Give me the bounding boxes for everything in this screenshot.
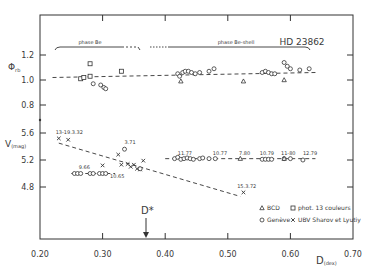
svg-text:BCD: BCD xyxy=(267,204,280,211)
svg-text:UBV Sharov et Lyutiy: UBV Sharov et Lyutiy xyxy=(298,216,361,224)
svg-text:10.79: 10.79 xyxy=(260,150,274,156)
svg-text:phot. 13 couleurs: phot. 13 couleurs xyxy=(298,204,351,212)
svg-text:Genève: Genève xyxy=(267,216,290,223)
y-label-lower: V(mag) xyxy=(5,139,26,150)
data-points xyxy=(57,61,311,195)
svg-text:0.50: 0.50 xyxy=(219,250,237,259)
svg-text:1.2: 1.2 xyxy=(21,51,34,60)
svg-text:13-19.3.32: 13-19.3.32 xyxy=(56,129,83,135)
d-star-marker: D* xyxy=(141,205,154,238)
legend: BCDphot. 13 couleursGenèveUBV Sharov et … xyxy=(260,204,361,224)
svg-text:5.2: 5.2 xyxy=(21,156,34,165)
svg-text:11-80: 11-80 xyxy=(281,150,296,156)
svg-text:0.40: 0.40 xyxy=(156,250,174,259)
x-axis-label: D(dex) xyxy=(316,255,337,266)
svg-text:10.65: 10.65 xyxy=(110,173,124,179)
svg-text:5.6: 5.6 xyxy=(21,129,34,138)
svg-text:10.77: 10.77 xyxy=(213,150,227,156)
svg-text:9.66: 9.66 xyxy=(79,164,90,170)
svg-text:0.60: 0.60 xyxy=(281,250,299,259)
svg-text:15.3.72: 15.3.72 xyxy=(237,183,256,189)
svg-text:7.80: 7.80 xyxy=(239,150,250,156)
chart-title: HD 23862 xyxy=(279,37,324,47)
chart-figure: 0.200.300.400.500.600.70 1.21.00.85.65.2… xyxy=(0,0,373,271)
svg-text:phase Be-shell: phase Be-shell xyxy=(218,39,255,46)
svg-text:0.8: 0.8 xyxy=(21,101,34,110)
svg-text:1.0: 1.0 xyxy=(21,76,34,85)
svg-text:3.71: 3.71 xyxy=(125,139,136,145)
arrow-down-icon xyxy=(143,232,149,238)
svg-text:11.77: 11.77 xyxy=(178,150,192,156)
svg-text:12.79: 12.79 xyxy=(303,150,317,156)
phase-brackets: phase Bephase Be-shell xyxy=(55,39,310,50)
y-label-upper: Φrb xyxy=(8,62,20,73)
svg-text:phase Be: phase Be xyxy=(78,39,101,46)
svg-text:0.70: 0.70 xyxy=(344,250,362,259)
svg-text:0.30: 0.30 xyxy=(94,250,112,259)
svg-text:0.20: 0.20 xyxy=(31,250,49,259)
svg-text:4.8: 4.8 xyxy=(21,183,34,192)
trend-lines xyxy=(53,73,316,197)
svg-text:D*: D* xyxy=(141,205,154,216)
